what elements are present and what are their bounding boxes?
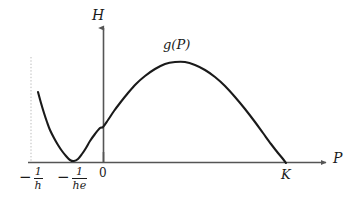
- x-tick-label-neg-one-over-h: − 1 h: [19, 166, 43, 191]
- x-axis-label: P: [333, 151, 342, 165]
- fraction-one-over-h: 1 h: [34, 166, 43, 191]
- fraction-denominator-h: h: [34, 179, 43, 191]
- fraction-one-over-he: 1 he: [72, 166, 88, 191]
- minus-sign-he: −: [57, 170, 70, 185]
- curve-label: g(P): [163, 38, 190, 51]
- y-axis-label: H: [92, 8, 104, 22]
- figure-container: H P g(P) K 0 − 1 h − 1 he: [0, 0, 351, 200]
- fraction-numerator-h: 1: [34, 166, 43, 178]
- plot-canvas: [0, 0, 351, 200]
- x-tick-label-zero: 0: [99, 167, 107, 179]
- x-tick-label-k: K: [281, 168, 291, 181]
- fraction-numerator-he: 1: [75, 166, 84, 178]
- x-tick-label-neg-one-over-he: − 1 he: [57, 166, 87, 191]
- fraction-denominator-he: he: [72, 179, 88, 191]
- minus-sign-h: −: [19, 170, 32, 185]
- curve-g-of-p: [38, 62, 286, 163]
